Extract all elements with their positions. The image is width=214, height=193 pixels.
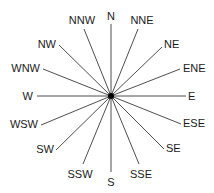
- ray-ne: [111, 47, 162, 96]
- compass-rose-diagram: NNNENEENEEESESESSESSSWSWWSWWWNWNWNNW: [0, 0, 214, 193]
- ray-nne: [111, 29, 138, 96]
- label-nw: NW: [38, 38, 57, 50]
- center-dot: [108, 93, 114, 99]
- ray-sse: [111, 96, 139, 164]
- label-ssw: SSW: [67, 168, 93, 180]
- label-wsw: WSW: [10, 118, 39, 130]
- label-ne: NE: [164, 38, 179, 50]
- label-n: N: [107, 10, 115, 22]
- ray-nw: [59, 45, 111, 96]
- ray-wnw: [43, 69, 111, 96]
- label-ene: ENE: [183, 62, 206, 74]
- label-se: SE: [166, 142, 181, 154]
- label-sw: SW: [36, 143, 54, 155]
- label-s: S: [107, 176, 114, 188]
- ray-sw: [56, 96, 111, 150]
- ray-ese: [111, 96, 181, 124]
- ray-se: [111, 96, 164, 149]
- ray-ene: [111, 69, 180, 96]
- label-ese: ESE: [183, 117, 205, 129]
- label-wnw: WNW: [11, 62, 40, 74]
- ray-nnw: [84, 29, 111, 96]
- label-nne: NNE: [130, 14, 153, 26]
- label-nnw: NNW: [69, 14, 96, 26]
- label-sse: SSE: [130, 168, 152, 180]
- label-e: E: [188, 90, 195, 102]
- label-w: W: [23, 90, 34, 102]
